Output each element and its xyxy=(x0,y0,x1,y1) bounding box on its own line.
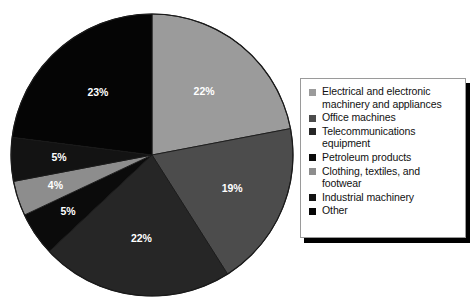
legend-item[interactable]: Other xyxy=(308,204,459,217)
legend-item-label: Clothing, textiles, and footwear xyxy=(322,165,420,190)
legend-item[interactable]: Industrial machinery xyxy=(308,191,459,204)
chart-legend: Electrical and electronic machinery and … xyxy=(300,78,466,238)
pie-slice-label: 23% xyxy=(87,86,109,98)
pie-slice-label: 5% xyxy=(51,151,67,163)
pie-chart-plot-area: 22%19%22%5%4%5%23% xyxy=(9,12,295,298)
legend-color-swatch-icon xyxy=(308,153,317,162)
legend-item-label: Telecommunications equipment xyxy=(322,125,415,150)
pie-chart-svg: 22%19%22%5%4%5%23% xyxy=(9,12,295,298)
legend-item-list: Electrical and electronic machinery and … xyxy=(308,85,459,217)
legend-item-label: Office machines xyxy=(322,111,396,124)
legend-color-swatch-icon xyxy=(308,193,317,202)
pie-slice[interactable] xyxy=(12,14,152,155)
pie-chart-figure: 22%19%22%5%4%5%23% Electrical and electr… xyxy=(0,0,476,308)
pie-slice-label: 5% xyxy=(60,205,76,217)
legend-item[interactable]: Electrical and electronic machinery and … xyxy=(308,85,459,110)
legend-color-swatch-icon xyxy=(308,114,317,123)
legend-color-swatch-icon xyxy=(308,207,317,216)
legend-item-label: Other xyxy=(322,204,348,217)
legend-item-label: Electrical and electronic machinery and … xyxy=(322,85,442,110)
legend-item[interactable]: Office machines xyxy=(308,111,459,124)
legend-item[interactable]: Telecommunications equipment xyxy=(308,125,459,150)
pie-slice-label: 19% xyxy=(222,182,244,194)
legend-item[interactable]: Clothing, textiles, and footwear xyxy=(308,165,459,190)
legend-color-swatch-icon xyxy=(308,127,317,136)
pie-slice-label: 22% xyxy=(194,85,216,97)
legend-item-label: Petroleum products xyxy=(322,151,411,164)
pie-slice-label: 22% xyxy=(131,232,153,244)
legend-color-swatch-icon xyxy=(308,88,317,97)
legend-item[interactable]: Petroleum products xyxy=(308,151,459,164)
legend-item-label: Industrial machinery xyxy=(322,191,414,204)
legend-color-swatch-icon xyxy=(308,167,317,176)
pie-slice-label: 4% xyxy=(48,179,64,191)
